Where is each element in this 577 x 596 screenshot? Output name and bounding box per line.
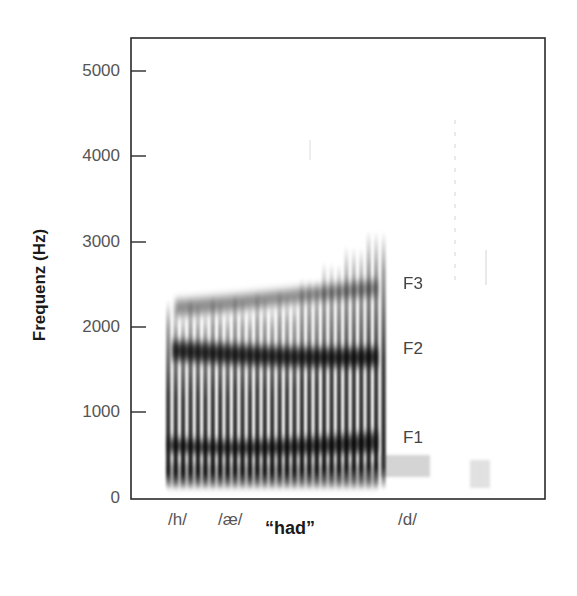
y-axis-label: Frequenz (Hz) [30,229,50,341]
y-tick-0: 0 [50,488,120,508]
segment-label-d: /d/ [398,510,417,530]
segment-label-ae: /æ/ [218,510,243,530]
formant-label-f2: F2 [403,339,423,359]
y-axis-ticks [131,71,146,412]
faint-noise-traces [310,120,486,285]
spectrogram-figure: Frequenz (Hz) 5000 4000 3000 2000 1000 0… [0,0,577,596]
y-tick-5000: 5000 [50,61,120,81]
y-tick-4000: 4000 [50,146,120,166]
segment-label-h: /h/ [168,510,187,530]
formant-label-f3: F3 [403,274,423,294]
y-tick-2000: 2000 [50,317,120,337]
y-tick-1000: 1000 [50,402,120,422]
release-burst [380,455,490,488]
x-axis-label: “had” [265,518,315,539]
y-tick-3000: 3000 [50,232,120,252]
formant-label-f1: F1 [403,428,423,448]
